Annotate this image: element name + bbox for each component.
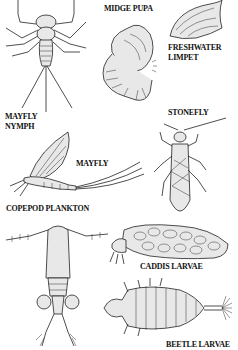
label-beetle-larvae: BEETLE LARVAE <box>166 340 230 349</box>
freshwater-limpet-drawing <box>170 0 222 39</box>
beetle-larvae-drawing <box>104 278 232 336</box>
label-caddis-larvae: CADDIS LARVAE <box>140 262 203 271</box>
label-mayfly-nymph-line2: NYMPH <box>5 122 34 131</box>
caddis-larvae-drawing <box>110 225 228 264</box>
label-mayfly-nymph-line1: MAYFLY <box>5 112 37 121</box>
mayfly-nymph-drawing <box>6 0 86 112</box>
illustration-sheet: MIDGE PUPA FRESHWATER LIMPET MAYFLY NYMP… <box>0 0 238 350</box>
label-midge-pupa: MIDGE PUPA <box>104 4 153 13</box>
label-freshwater-limpet-line2: LIMPET <box>168 53 198 62</box>
midge-pupa-drawing <box>103 25 157 100</box>
label-mayfly: MAYFLY <box>76 159 108 168</box>
stonefly-drawing <box>154 118 226 211</box>
label-freshwater-limpet-line1: FRESHWATER <box>168 43 221 52</box>
label-copepod-plankton: COPEPOD PLANKTON <box>6 204 89 213</box>
copepod-drawing <box>6 226 108 346</box>
organism-drawings <box>0 0 238 350</box>
label-stonefly: STONEFLY <box>168 108 209 117</box>
